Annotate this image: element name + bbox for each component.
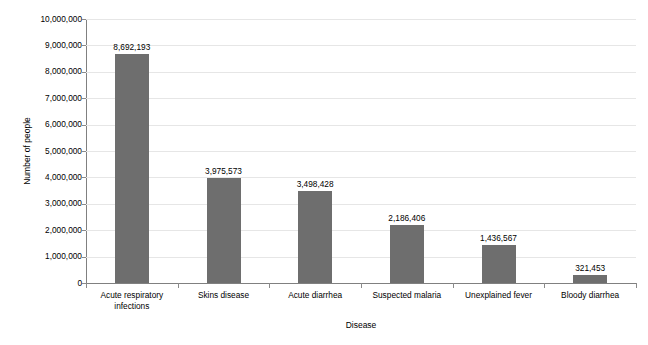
bar[interactable] <box>482 245 516 283</box>
y-axis-tick-mark <box>82 72 86 73</box>
gridline <box>86 98 636 99</box>
x-axis-category-label: Skins disease <box>178 290 270 301</box>
x-axis-tick-mark <box>86 283 87 288</box>
y-axis-tick-label: 9,000,000 <box>0 41 82 50</box>
y-axis-tick-label: 2,000,000 <box>0 226 82 235</box>
x-axis-category-label: Unexplained fever <box>453 290 545 301</box>
bar-chart: Number of people 01,000,0002,000,0003,00… <box>0 0 648 345</box>
y-axis-tick-mark <box>82 125 86 126</box>
bar[interactable] <box>115 54 149 283</box>
x-axis-tick-mark <box>544 283 545 288</box>
bar-value-label: 1,436,567 <box>454 233 544 243</box>
gridline <box>86 177 636 178</box>
x-axis-tick-mark <box>269 283 270 288</box>
y-axis-tick-mark <box>82 204 86 205</box>
y-axis-tick-label: 1,000,000 <box>0 252 82 261</box>
bar[interactable] <box>298 191 332 283</box>
y-axis-tick-label: 8,000,000 <box>0 67 82 76</box>
x-axis-tick-mark <box>361 283 362 288</box>
y-axis-tick-label: 6,000,000 <box>0 120 82 129</box>
gridline <box>86 125 636 126</box>
bar-value-label: 8,692,193 <box>87 42 177 52</box>
plot-area: 8,692,1933,975,5733,498,4282,186,4061,43… <box>86 19 636 283</box>
x-axis-category-label: Acute respiratory infections <box>86 290 178 312</box>
y-axis-tick-mark <box>82 230 86 231</box>
y-axis-tick-mark <box>82 177 86 178</box>
gridline <box>86 230 636 231</box>
gridline <box>86 204 636 205</box>
gridline <box>86 72 636 73</box>
y-axis-tick-mark <box>82 19 86 20</box>
gridline <box>86 19 636 20</box>
y-axis-tick-label: 10,000,000 <box>0 15 82 24</box>
bar-value-label: 321,453 <box>545 263 635 273</box>
bar-value-label: 2,186,406 <box>362 213 452 223</box>
gridline <box>86 257 636 258</box>
x-axis-category-label: Bloody diarrhea <box>544 290 636 301</box>
y-axis-tick-label: 4,000,000 <box>0 173 82 182</box>
x-axis-category-label: Suspected malaria <box>361 290 453 301</box>
y-axis-tick-mark <box>82 151 86 152</box>
x-axis-tick-mark <box>178 283 179 288</box>
x-axis-tick-mark <box>636 283 637 288</box>
x-axis-tick-mark <box>453 283 454 288</box>
y-axis-tick-mark <box>82 98 86 99</box>
y-axis-tick-labels: 01,000,0002,000,0003,000,0004,000,0005,0… <box>0 0 82 345</box>
bar-value-label: 3,498,428 <box>270 179 360 189</box>
y-axis-tick-mark <box>82 45 86 46</box>
y-axis-tick-label: 0 <box>0 279 82 288</box>
y-axis-tick-label: 7,000,000 <box>0 94 82 103</box>
x-axis-category-label: Acute diarrhea <box>269 290 361 301</box>
y-axis-tick-label: 5,000,000 <box>0 147 82 156</box>
y-axis-tick-label: 3,000,000 <box>0 199 82 208</box>
bar[interactable] <box>207 178 241 283</box>
gridline <box>86 151 636 152</box>
bar-value-label: 3,975,573 <box>179 166 269 176</box>
bar[interactable] <box>390 225 424 283</box>
bar[interactable] <box>573 275 607 283</box>
x-axis-title: Disease <box>86 320 636 331</box>
y-axis-tick-mark <box>82 257 86 258</box>
